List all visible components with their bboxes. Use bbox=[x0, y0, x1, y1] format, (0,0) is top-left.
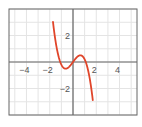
x-tick-label: 2 bbox=[92, 65, 97, 75]
y-tick-label: 2 bbox=[65, 31, 70, 41]
chart: −4−2242−2 bbox=[0, 0, 142, 127]
x-tick-label: −2 bbox=[43, 65, 53, 75]
x-tick-label: −4 bbox=[19, 65, 29, 75]
x-tick-label: 4 bbox=[115, 65, 120, 75]
y-tick-label: −2 bbox=[60, 84, 70, 94]
